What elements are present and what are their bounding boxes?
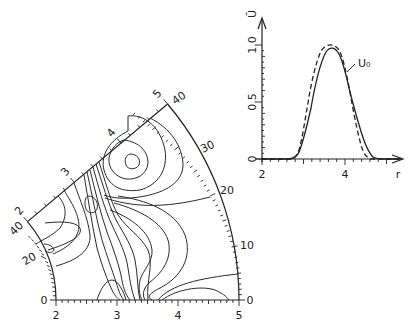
polar-labels: 2 3 4 5 2 3 4 5 0 20 40 0 10 20 30 40 <box>7 87 254 322</box>
top-tick-5: 5 <box>150 87 164 101</box>
polar-contour-plot: 2 3 4 5 2 3 4 5 0 20 40 0 10 20 30 40 <box>7 87 254 322</box>
polar-outer-arc <box>168 104 239 300</box>
right-theta-20: 20 <box>220 184 234 197</box>
r-tick-3: 3 <box>114 309 121 322</box>
right-theta-10: 10 <box>240 239 254 252</box>
top-tick-3: 3 <box>58 165 72 179</box>
x-tick-2: 2 <box>259 168 266 181</box>
r-tick-2: 2 <box>53 309 60 322</box>
u0-annotation: U₀ <box>358 57 371 70</box>
r-tick-4: 4 <box>175 309 182 322</box>
left-theta-40: 40 <box>7 219 26 238</box>
top-tick-4: 4 <box>104 126 118 140</box>
x-axis-label: r <box>396 168 401 181</box>
top-tick-2: 2 <box>12 204 26 218</box>
polar-bottom-ticks <box>56 300 239 306</box>
left-theta-20: 20 <box>20 250 39 268</box>
u0-leader-line <box>347 64 355 72</box>
dashed-curve-u0 <box>262 45 402 159</box>
y-tick-0-5: 0.5 <box>246 93 259 111</box>
polar-top-ticks <box>24 99 168 221</box>
x-ticks <box>262 159 387 165</box>
y-axis-label: Ū <box>246 10 259 18</box>
right-theta-0: 0 <box>247 294 254 307</box>
right-theta-40: 40 <box>170 89 189 108</box>
x-tick-4: 4 <box>342 168 349 181</box>
left-theta-0: 0 <box>41 294 48 307</box>
r-tick-5: 5 <box>236 309 243 322</box>
y-tick-1-0: 1.0 <box>246 36 259 54</box>
solid-curve-u-bar <box>262 48 402 159</box>
line-plot: U₀ 2 4 r 0 0.5 1.0 Ū <box>246 10 403 181</box>
figure: 2 3 4 5 2 3 4 5 0 20 40 0 10 20 30 40 <box>0 0 408 335</box>
y-tick-0: 0 <box>246 156 259 163</box>
